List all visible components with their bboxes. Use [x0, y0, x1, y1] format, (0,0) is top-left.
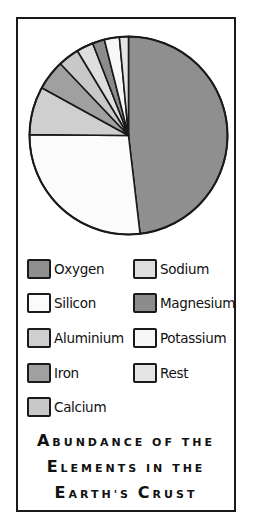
- legend-label: Sodium: [160, 261, 209, 277]
- legend-swatch: [27, 293, 51, 313]
- legend-label: Potassium: [160, 330, 226, 346]
- legend-swatch: [133, 328, 157, 348]
- legend-swatch: [27, 328, 51, 348]
- legend-item-iron: Iron: [27, 362, 79, 384]
- legend-swatch: [27, 259, 51, 279]
- legend-label: Magnesium: [160, 295, 235, 311]
- legend-item-rest: Rest: [133, 362, 188, 384]
- title-line-3: EARTH'S CRUST: [16, 480, 236, 506]
- legend-swatch: [133, 259, 157, 279]
- legend-item-sodium: Sodium: [133, 258, 209, 280]
- legend-item-aluminium: Aluminium: [27, 327, 124, 349]
- legend-item-calcium: Calcium: [27, 396, 106, 418]
- legend-label: Aluminium: [54, 330, 124, 346]
- legend-label: Calcium: [54, 399, 106, 415]
- title-line-1: ABUNDANCE OF THE: [16, 428, 236, 454]
- legend-swatch: [133, 363, 157, 383]
- legend-label: Silicon: [54, 295, 96, 311]
- legend-swatch: [133, 293, 157, 313]
- legend-label: Iron: [54, 365, 79, 381]
- legend-item-magnesium: Magnesium: [133, 292, 235, 314]
- chart-title: ABUNDANCE OF THEELEMENTS IN THEEARTH'S C…: [16, 428, 236, 506]
- pie-chart: [0, 0, 257, 250]
- legend-label: Oxygen: [54, 261, 104, 277]
- legend-swatch: [27, 397, 51, 417]
- pie-slice-oxygen: [129, 37, 228, 234]
- pie-slice-silicon: [29, 135, 140, 235]
- legend-swatch: [27, 363, 51, 383]
- title-line-2: ELEMENTS IN THE: [16, 454, 236, 480]
- legend-item-silicon: Silicon: [27, 292, 96, 314]
- legend-item-potassium: Potassium: [133, 327, 226, 349]
- legend-item-oxygen: Oxygen: [27, 258, 104, 280]
- legend-label: Rest: [160, 365, 188, 381]
